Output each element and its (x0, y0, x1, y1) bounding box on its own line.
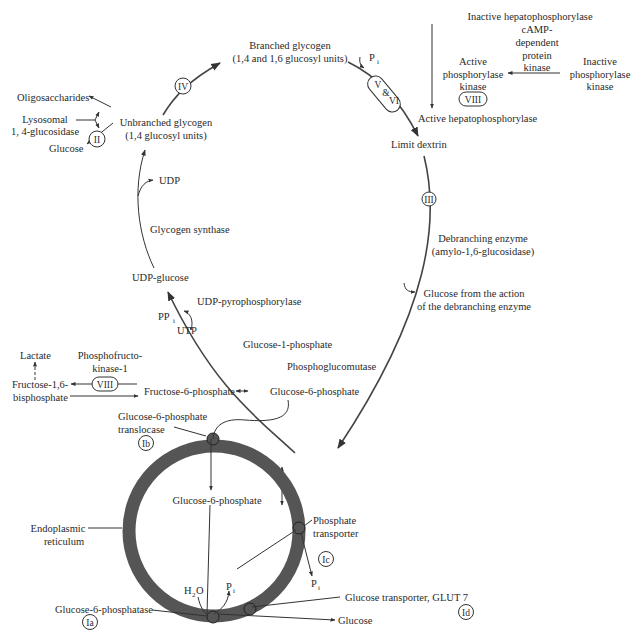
unbranched-glycogen-sublabel: (1,4 glucosyl units) (125, 130, 207, 142)
badge-iv-label: IV (178, 82, 188, 92)
badge-V-VI: V & VI (364, 73, 403, 115)
pi-top-sub: i (377, 58, 379, 66)
pfk-label: Phosphofructo- (78, 350, 143, 361)
active-kinase-line1: Active (459, 56, 487, 67)
badge-ia-label: Ia (86, 618, 94, 628)
inactive-kinase-line1: Inactive (583, 56, 617, 67)
phosphate-transporter-label: Phosphate (313, 515, 357, 526)
phosphoglucomutase-label: Phosphoglucomutase (287, 361, 377, 372)
badge-Ic: Ic (319, 552, 334, 567)
inactive-kinase-line3: kinase (587, 81, 614, 92)
phosphate-transporter-site (293, 522, 305, 534)
udp-pyrophosphorylase-arrow (168, 292, 295, 453)
glycogen-synthase-arrow (138, 150, 154, 268)
glucose-6-phosphate-label: Glucose-6-phosphate (270, 386, 360, 397)
fructose-6-phosphate-label: Fructose-6-phosphate (144, 386, 235, 397)
udp-branch-arrow (138, 180, 153, 196)
oligosaccharide-arrow (89, 96, 111, 107)
g6p-translocase-sublabel: translocase (118, 424, 165, 435)
badge-Ib: Ib (139, 436, 154, 451)
phosphate-transporter-sublabel: transporter (313, 528, 359, 539)
pi-input-arrow (360, 57, 364, 68)
ppi-label: PP (158, 311, 170, 322)
pi-inner-sub: i (233, 587, 235, 595)
inactive-kinase-line2: phosphorylase (570, 69, 631, 80)
camp-kinase-line4: kinase (524, 62, 551, 73)
glucose-transporter-label: Glucose transporter, GLUT 7 (345, 592, 468, 603)
lysosome-glucose-label: Glucose (49, 143, 84, 154)
badge-viii-pfk-label: VIII (97, 380, 113, 390)
g6p-to-g6pase-line (207, 505, 210, 614)
debranching-glucose-arrow (404, 283, 415, 292)
g6p-translocase-label: Glucose-6-phosphate (118, 411, 208, 422)
g6p-inner-label: Glucose-6-phosphate (172, 495, 262, 506)
utp-label: UTP (177, 325, 197, 336)
pfk-sublabel: kinase-1 (92, 363, 128, 374)
pi-out-label: P (311, 578, 317, 589)
glucose-debranching-line1: Glucose from the action (423, 288, 525, 299)
g6p-translocase-path (213, 400, 288, 439)
badge-ii-label: II (94, 135, 100, 145)
udp-label: UDP (159, 175, 180, 186)
badge-VIII-kinase: VIII (459, 92, 487, 106)
badge-Id: Id (459, 605, 474, 620)
ppi-sub: i (173, 317, 175, 325)
h2o-label: H (184, 585, 192, 596)
udp-glucose-label: UDP-glucose (132, 272, 189, 283)
er-membrane (129, 446, 299, 616)
active-hepatophosphorylase-label: Active hepatophosphorylase (418, 113, 538, 124)
glycogen-metabolism-diagram: IV II V & VI III VIII VIII Ib Ia Ic Id B… (0, 0, 641, 639)
inactive-hepatophosphorylase-label: Inactive hepatophosphorylase (467, 11, 592, 22)
g6pase-site (207, 611, 219, 623)
lysosomal-arrow-up (95, 112, 99, 120)
badge-III: III (422, 192, 436, 206)
branching-arrow (163, 63, 220, 115)
badge-ic-label: Ic (322, 555, 329, 565)
h2o-o: O (196, 585, 204, 596)
badge-id-label: Id (462, 608, 470, 618)
udp-pyrophosphorylase-label: UDP-pyrophosphorylase (197, 296, 302, 307)
badge-VIII-pfk: VIII (92, 377, 118, 391)
lysosomal-arrow-down (95, 120, 99, 128)
debranching-enzyme-sublabel: (amylo-1,6-glucosidase) (432, 246, 535, 258)
badge-iii-label: III (424, 195, 434, 205)
branched-glycogen-label: Branched glycogen (249, 40, 331, 51)
glucose-out-label: Glucose (338, 615, 373, 626)
fructose-bisphosphate-label: Fructose-1,6- (12, 379, 69, 390)
lysosomal-label: Lysosomal (22, 114, 68, 125)
badge-IV: IV (175, 78, 191, 94)
lysosomal-sublabel: 1, 4-glucosidase (11, 126, 80, 137)
translocase-label-line (174, 427, 206, 436)
er-label: Endoplasmic (31, 523, 86, 534)
fructose-bisphosphate-sublabel: bisphosphate (13, 392, 68, 403)
lactate-label: Lactate (20, 350, 51, 361)
debranching-enzyme-label: Debranching enzyme (438, 233, 528, 244)
badge-Ia: Ia (83, 615, 98, 630)
camp-kinase-line3: protein (522, 50, 552, 61)
g6pase-label: Glucose-6-phosphatase (55, 604, 153, 615)
badge-v-label: V (375, 80, 382, 90)
phosphate-out-arrow (301, 533, 312, 576)
glucose-1-phosphate-label: Glucose-1-phosphate (243, 339, 333, 350)
limit-dextrin-label: Limit dextrin (391, 139, 447, 150)
badge-viii-kinase-label: VIII (465, 95, 481, 105)
active-kinase-line3: kinase (460, 81, 487, 92)
glucose-transporter-site (244, 603, 256, 615)
active-kinase-line2: phosphorylase (443, 69, 504, 80)
badge-II: II (89, 131, 105, 147)
pi-out-sub: i (318, 584, 320, 592)
er-sublabel: reticulum (44, 536, 84, 547)
badge-vi-label: VI (389, 96, 399, 106)
branched-glycogen-sublabel: (1,4 and 1,6 glucosyl units) (233, 53, 348, 65)
phosphate-label-line (304, 520, 312, 526)
pi-top-label: P (369, 52, 375, 63)
badge-ib-label: Ib (142, 439, 150, 449)
pi-inner-label: P (226, 581, 232, 592)
camp-kinase-line1: cAMP- (522, 24, 553, 35)
oligosaccharides-label: Oligosaccharides (17, 92, 89, 103)
glycogen-synthase-label: Glycogen synthase (150, 224, 230, 235)
camp-kinase-line2: dependent (515, 37, 558, 48)
glucose-debranching-line2: of the debranching enzyme (417, 301, 531, 312)
unbranched-glycogen-label: Unbranched glycogen (120, 117, 213, 128)
